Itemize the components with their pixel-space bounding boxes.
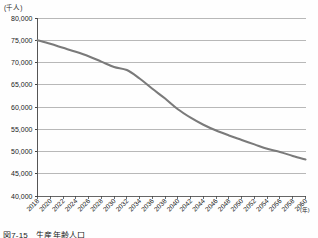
x-tick-label: 2046 <box>204 197 220 213</box>
x-tick-label: 2044 <box>191 197 207 213</box>
x-tick-label: 2026 <box>76 197 92 213</box>
line-chart-plot: 80,00075,00070,00065,00060,00055,00050,0… <box>0 0 318 238</box>
y-tick-label: 50,000 <box>11 148 33 155</box>
x-tick-label: 2024 <box>63 197 79 213</box>
x-tick-label: 2056 <box>267 197 283 213</box>
x-tick-label: 2048 <box>216 197 232 213</box>
y-tick-label: 60,000 <box>11 104 33 111</box>
x-tick-label: 2030 <box>101 197 117 213</box>
x-tick-label: 2020 <box>38 197 54 213</box>
y-tick-label: 75,000 <box>11 37 33 44</box>
y-tick-label: 40,000 <box>11 193 33 200</box>
x-tick-label: 2052 <box>242 197 258 213</box>
x-axis-unit-label: (年) <box>300 206 310 214</box>
x-tick-label: 2058 <box>280 197 296 213</box>
x-tick-label: 2036 <box>140 197 156 213</box>
x-tick-label: 2032 <box>114 197 130 213</box>
y-tick-label: 65,000 <box>11 81 33 88</box>
y-tick-label: 70,000 <box>11 59 33 66</box>
x-tick-label: 2038 <box>153 197 169 213</box>
figure-container: (千人) 80,00075,00070,00065,00060,00055,00… <box>0 0 318 238</box>
x-tick-label: 2034 <box>127 197 143 213</box>
x-tick-label: 2054 <box>255 197 271 213</box>
data-line-series-1 <box>38 40 306 159</box>
x-tick-label: 2042 <box>178 197 194 213</box>
x-tick-label: 2028 <box>89 197 105 213</box>
figure-caption: 図7-15 生産年齢人口 <box>3 229 85 238</box>
x-tick-label: 2022 <box>50 197 66 213</box>
y-tick-label: 55,000 <box>11 126 33 133</box>
y-tick-label: 45,000 <box>11 170 33 177</box>
x-tick-label: 2040 <box>165 197 181 213</box>
x-tick-label: 2050 <box>229 197 245 213</box>
y-tick-label: 80,000 <box>11 15 33 22</box>
